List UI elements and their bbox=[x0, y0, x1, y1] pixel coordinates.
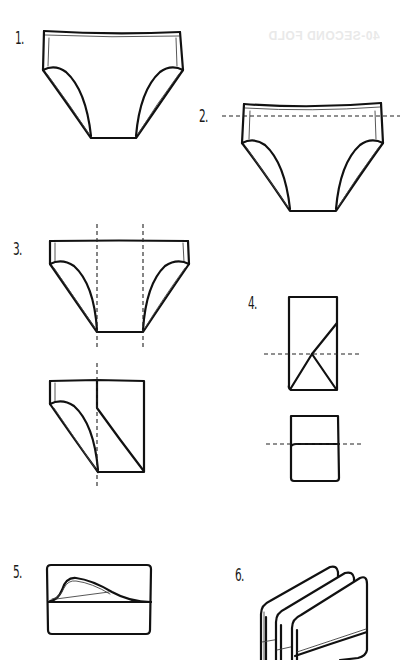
step-2-briefs-illustration bbox=[222, 103, 400, 211]
step-5-tucked-illustration bbox=[47, 565, 151, 634]
step-4b-folded-illustration bbox=[266, 416, 364, 481]
step-1-briefs-illustration bbox=[43, 31, 183, 138]
step-3b-briefs-illustration bbox=[50, 363, 144, 487]
step-3-briefs-illustration bbox=[50, 224, 189, 348]
step-4-folded-illustration bbox=[264, 297, 362, 390]
step-6-stacked-illustration bbox=[261, 567, 367, 660]
folding-instructions-diagram: 40-SECOND FOLD 1. 2. 3. 4. 5. 6. bbox=[0, 0, 409, 660]
